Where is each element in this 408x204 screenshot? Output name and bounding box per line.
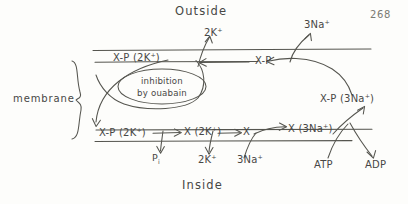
species-x-3na: X (3Na⁺) — [288, 124, 333, 134]
arrow-xp2k-to-x2k-head — [174, 129, 181, 136]
species-k-inside: 2K⁺ — [198, 155, 217, 165]
species-xp-3na: X-P (3Na⁺) — [320, 94, 374, 104]
species-adp: ADP — [365, 160, 386, 170]
arrow-x2k-to-x-head — [235, 129, 242, 136]
species-xp-middle: X-P — [255, 56, 272, 66]
species-na-inside: 3Na⁺ — [237, 155, 263, 165]
page-number: 268 — [370, 10, 391, 20]
arrow-adp-out-head — [367, 151, 376, 159]
species-k-outside: 2K⁺ — [204, 28, 223, 38]
arrow-left-descend-head — [92, 119, 100, 127]
arrow-xp2k-to-x2k — [153, 133, 180, 134]
membrane-label: membrane — [13, 94, 75, 104]
outside-label: Outside — [175, 6, 227, 18]
species-x-2k: X (2K⁺) — [184, 127, 221, 137]
arrow-x3na-to-xp3na — [333, 108, 363, 134]
diagram-canvas: Outside Inside membrane 268 X-P (2K⁺) 2K… — [0, 0, 408, 204]
arrow-x-to-x3na — [254, 127, 285, 134]
species-pi: Pi — [152, 153, 160, 163]
species-atp: ATP — [314, 160, 333, 170]
arrow-xp3na-to-xp — [268, 58, 352, 95]
arrow-3na-release — [290, 35, 309, 62]
arrow-3na-release-head — [305, 33, 312, 40]
species-na-outside: 3Na⁺ — [304, 20, 330, 30]
inhibition-bubble-line2: by ouabain — [137, 89, 187, 98]
species-x-free: X — [243, 127, 250, 137]
arrow-x3na-to-xp3na-head — [358, 106, 365, 114]
arrow-xp-to-xp2k — [200, 62, 249, 63]
inhibition-bubble-line1: inhibition — [141, 77, 183, 86]
species-xp-2k-outer: X-P (2K⁺) — [113, 53, 160, 63]
arrow-adp-out — [350, 123, 372, 156]
inside-label: Inside — [182, 180, 223, 192]
inhibition-bubble: inhibition by ouabain — [120, 76, 204, 98]
arrow-x-to-x3na-head — [279, 123, 286, 130]
arrow-pi-release — [161, 131, 164, 151]
membrane-line-bottom — [95, 141, 352, 142]
membrane-line-top — [93, 49, 371, 51]
arrow-xp-to-xp2k-head — [199, 59, 206, 67]
pi-subscript: i — [158, 158, 160, 165]
species-xp-2k-inner: X-P (2K⁺) — [99, 128, 146, 138]
arrow-2k-release — [198, 38, 209, 67]
